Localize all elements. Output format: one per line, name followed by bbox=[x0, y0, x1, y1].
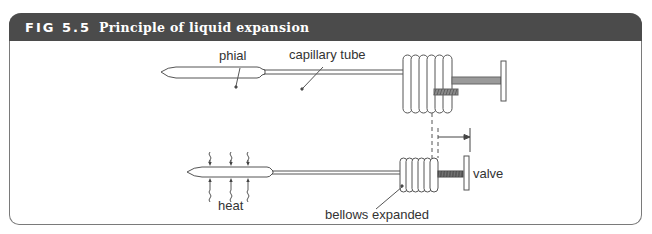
label-bellows-expanded: bellows expanded bbox=[325, 207, 429, 222]
phial-bottom bbox=[187, 167, 273, 177]
phial-top bbox=[161, 67, 265, 78]
bellows-bottom bbox=[392, 158, 438, 192]
label-capillary-tube: capillary tube bbox=[289, 47, 366, 62]
top-assembly bbox=[161, 55, 506, 113]
valve-rod-top bbox=[452, 77, 501, 84]
valve-plate-top bbox=[501, 61, 506, 101]
displacement-guides bbox=[432, 113, 438, 158]
bellows-top bbox=[403, 55, 452, 113]
valve-plate-bottom bbox=[464, 156, 469, 190]
displacement-arrow bbox=[438, 128, 470, 152]
label-heat: heat bbox=[218, 198, 244, 213]
label-valve: valve bbox=[473, 166, 503, 181]
liquid-expansion-diagram: phial capillary tube bbox=[0, 0, 652, 234]
threaded-rod-bottom bbox=[438, 171, 463, 177]
label-phial: phial bbox=[219, 48, 247, 63]
